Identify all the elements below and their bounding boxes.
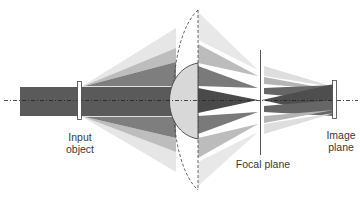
focal-plane-label: Focal plane [228, 158, 298, 170]
image-plane [333, 81, 337, 119]
input-object [78, 82, 82, 120]
image-plane-label: Image plane [322, 129, 360, 153]
input-beam [20, 87, 178, 116]
optical-diagram [0, 0, 362, 200]
image-beams [262, 66, 334, 134]
out-mid-lower [198, 112, 258, 134]
input-object-label: Input object [56, 131, 104, 155]
